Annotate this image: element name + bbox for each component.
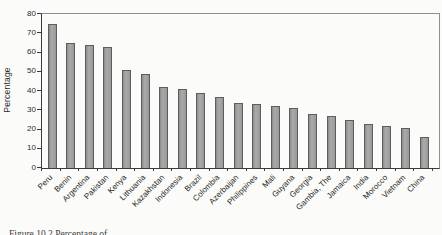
bar-argentina — [85, 45, 94, 168]
bar-guyana — [289, 108, 298, 168]
x-tick-mark — [153, 168, 154, 171]
figure-caption: Figure 10.2 Percentage of — [9, 229, 107, 235]
x-tick-mark — [190, 168, 191, 171]
figure: Percentage 01020304050607080 PeruBeninAr… — [0, 0, 442, 235]
y-tick-label-50: 50 — [14, 66, 36, 75]
plot-area — [41, 13, 440, 169]
y-tick-label-20: 20 — [14, 124, 36, 133]
x-tick-mark — [116, 168, 117, 171]
y-axis-title-text: Percentage — [2, 67, 12, 112]
x-tick-mark — [134, 168, 135, 171]
bar-indonesia — [178, 89, 187, 168]
bar-morocco — [382, 126, 391, 168]
x-tick-mark — [227, 168, 228, 171]
bar-kenya — [122, 70, 131, 168]
x-tick-mark — [60, 168, 61, 171]
bar-pakistan — [103, 47, 112, 168]
bar-china — [420, 137, 429, 168]
x-tick-mark — [376, 168, 377, 171]
y-tick-label-30: 30 — [14, 105, 36, 114]
bar-kazakhstan — [159, 87, 168, 168]
bar-peru — [48, 24, 57, 168]
bar-colombia — [215, 97, 224, 168]
bar-vietnam — [401, 128, 410, 168]
x-tick-mark — [209, 168, 210, 171]
x-tick-mark — [339, 168, 340, 171]
x-tick-mark — [395, 168, 396, 171]
x-tick-mark — [78, 168, 79, 171]
x-tick-mark — [413, 168, 414, 171]
bar-benin — [66, 43, 75, 168]
x-tick-mark — [41, 168, 42, 171]
y-tick-label-10: 10 — [14, 143, 36, 152]
bar-india — [364, 124, 373, 168]
bar-jamaica — [345, 120, 354, 168]
x-tick-mark — [302, 168, 303, 171]
x-tick-mark — [320, 168, 321, 171]
x-tick-mark — [246, 168, 247, 171]
y-tick-label-60: 60 — [14, 47, 36, 56]
bar-mali — [271, 106, 280, 168]
bar-gambia-the — [327, 116, 336, 168]
y-axis-title: Percentage — [0, 13, 14, 167]
bar-brazil — [196, 93, 205, 168]
x-tick-mark — [283, 168, 284, 171]
x-tick-mark — [432, 168, 433, 171]
x-tick-mark — [357, 168, 358, 171]
y-tick-label-40: 40 — [14, 86, 36, 95]
x-tick-mark — [97, 168, 98, 171]
bar-lithuania — [141, 74, 150, 168]
y-tick-label-0: 0 — [14, 163, 36, 172]
bar-georgia — [308, 114, 317, 168]
x-tick-mark — [264, 168, 265, 171]
x-tick-mark — [171, 168, 172, 171]
bar-azerbaijan — [234, 103, 243, 168]
y-tick-label-80: 80 — [14, 9, 36, 18]
y-tick-label-70: 70 — [14, 28, 36, 37]
bar-philippines — [252, 104, 261, 168]
